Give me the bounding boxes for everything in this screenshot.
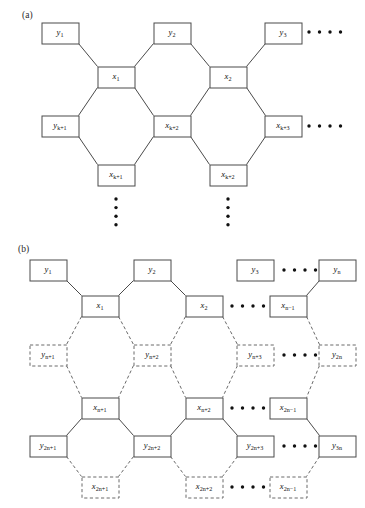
ellipsis-dot xyxy=(318,124,321,127)
node-y2[interactable]: y2 xyxy=(134,260,171,281)
node-x1[interactable]: x1 xyxy=(82,296,119,317)
node-subscript-yk1: k+1 xyxy=(57,126,67,132)
edge-y1-x1 xyxy=(79,44,98,67)
node-y1[interactable]: y1 xyxy=(30,260,67,281)
edge-b-y2-x2 xyxy=(171,281,186,296)
ellipsis-dot xyxy=(226,223,229,226)
node-y2n2[interactable]: y2n+2 xyxy=(134,436,171,457)
node-yn3[interactable]: yn+3 xyxy=(237,345,274,366)
edge-b-y1-x1 xyxy=(67,281,82,296)
node-subscript-y3: 3 xyxy=(255,270,258,276)
node-subscript-x2: 2 xyxy=(204,306,207,312)
ellipsis-dot xyxy=(318,30,321,33)
ellipsis-dot xyxy=(339,30,342,33)
ellipsis-dot xyxy=(230,304,233,307)
edge-yk1-xk1 xyxy=(79,137,98,165)
node-subscript-x2: 2 xyxy=(228,77,231,83)
figure-canvas: (a) xyxy=(0,0,365,508)
ellipsis-dot xyxy=(226,206,229,209)
ellipsis-dot xyxy=(251,304,254,307)
edge-b-y2n2-x2n2 xyxy=(171,457,186,477)
node-y3n[interactable]: y3n xyxy=(319,436,356,457)
node-subscript-x2n1: 2n−1 xyxy=(284,408,297,414)
ellipsis-dot xyxy=(262,304,265,307)
node-subscript-xn1b: n+1 xyxy=(97,408,107,414)
edge-b-y3n-x2n1c xyxy=(307,457,320,477)
edge-b-xn1-y2n1 xyxy=(67,419,82,436)
node-yn[interactable]: yn xyxy=(319,260,356,281)
ellipsis-row-mid-dots xyxy=(307,124,342,127)
node-subscript-x2n1c: 2n−1 xyxy=(284,487,297,493)
edge-b-yn2-xn1 xyxy=(119,366,134,398)
node-subscript-yn2: n+2 xyxy=(149,355,159,361)
node-subscript-y2: 2 xyxy=(172,33,175,39)
ellipsis-dot xyxy=(114,206,117,209)
node-yk1[interactable]: yk+1 xyxy=(42,116,79,137)
edge-x1-xk2 xyxy=(135,88,154,116)
ellipsis-dot xyxy=(303,353,306,356)
node-xn1b[interactable]: xn+1 xyxy=(82,398,119,419)
ellipsis-row2-dots xyxy=(230,304,265,307)
node-y3[interactable]: y3 xyxy=(237,260,274,281)
ellipsis-row6-dots xyxy=(230,485,265,488)
edge-b-y2n1-x2n1 xyxy=(67,457,82,477)
node-y1[interactable]: y1 xyxy=(42,23,79,44)
node-subscript-xk2: k+2 xyxy=(169,126,179,132)
panel-b: (b) xyxy=(18,244,356,498)
node-xk2b[interactable]: xk+2 xyxy=(210,165,247,186)
ellipsis-dot xyxy=(307,124,310,127)
node-xk2[interactable]: xk+2 xyxy=(154,116,191,137)
node-yn1[interactable]: yn+1 xyxy=(30,345,67,366)
node-x2[interactable]: x2 xyxy=(210,67,247,88)
node-subscript-xk3: k+3 xyxy=(280,126,290,132)
node-xk1[interactable]: xk+1 xyxy=(98,165,135,186)
edge-b-x2n1-y3n xyxy=(307,419,320,436)
edge-b-y2n3-x2n2 xyxy=(223,457,238,477)
ellipsis-dot xyxy=(314,268,317,271)
node-yn2[interactable]: yn+2 xyxy=(134,345,171,366)
ellipsis-dot xyxy=(226,197,229,200)
ellipsis-dot xyxy=(251,485,254,488)
edge-xk3-xk2b xyxy=(247,137,266,165)
node-subscript-x1: 1 xyxy=(116,77,119,83)
edge-x1-y2 xyxy=(135,44,154,67)
node-x2n1c[interactable]: x2n−1 xyxy=(270,477,307,498)
edge-b-x1-yn2 xyxy=(119,317,134,345)
edge-xk2-xk1 xyxy=(135,137,154,165)
edge-b-y2n-x2n1 xyxy=(307,366,320,398)
edge-b-x2-yn3 xyxy=(223,317,238,345)
node-x2n2[interactable]: x2n+2 xyxy=(186,477,223,498)
node-x2n1[interactable]: x2n−1 xyxy=(270,398,307,419)
ellipsis-dot xyxy=(114,215,117,218)
node-y3[interactable]: y3 xyxy=(265,23,302,44)
node-subscript-y3: 3 xyxy=(283,33,286,39)
ellipsis-col1-dots xyxy=(114,197,117,226)
edge-x1-yk1 xyxy=(79,88,98,116)
ellipsis-dot xyxy=(230,406,233,409)
ellipsis-dot xyxy=(114,197,117,200)
node-xn1[interactable]: xn−1 xyxy=(270,296,307,317)
node-xk3[interactable]: xk+3 xyxy=(265,116,302,137)
ellipsis-row4-dots xyxy=(230,406,265,409)
ellipsis-dot xyxy=(339,124,342,127)
ellipsis-row3-dots xyxy=(282,353,317,356)
panel-a-nodes: y1y2y3x1x2yk+1xk+2xk+3xk+1xk+2 xyxy=(42,23,302,186)
panel-a-horizontal-ellipses xyxy=(307,30,342,127)
node-y2[interactable]: y2 xyxy=(154,23,191,44)
edge-b-yn2-xn2 xyxy=(171,366,186,398)
node-subscript-y1: 1 xyxy=(48,270,51,276)
ellipsis-dot xyxy=(328,30,331,33)
node-subscript-y2n1: 2n+1 xyxy=(44,446,57,452)
ellipsis-dot xyxy=(314,353,317,356)
edge-b-x1-y2 xyxy=(119,281,134,296)
node-y2n3[interactable]: y2n+3 xyxy=(237,436,274,457)
edge-b-x1-yn1 xyxy=(67,317,82,345)
node-x2n1b[interactable]: x2n+1 xyxy=(82,477,119,498)
node-x2[interactable]: x2 xyxy=(186,296,223,317)
node-y2n[interactable]: y2n xyxy=(319,345,356,366)
node-subscript-y2: 2 xyxy=(152,270,155,276)
node-x1[interactable]: x1 xyxy=(98,67,135,88)
ellipsis-dot xyxy=(262,485,265,488)
node-xn2[interactable]: xn+2 xyxy=(186,398,223,419)
node-y2n1[interactable]: y2n+1 xyxy=(30,436,67,457)
